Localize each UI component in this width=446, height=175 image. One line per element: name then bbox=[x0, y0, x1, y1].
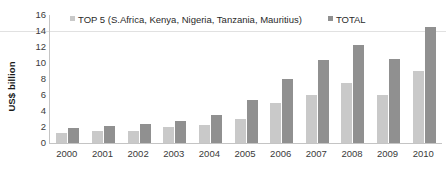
bar-top5 bbox=[163, 127, 174, 143]
bar-group bbox=[299, 15, 335, 143]
legend-item: TOP 5 (S.Africa, Kenya, Nigeria, Tanzani… bbox=[70, 14, 302, 25]
bar-total bbox=[389, 59, 400, 143]
y-axis-tick-labels: 1614121086420 bbox=[24, 9, 46, 149]
bar-total bbox=[211, 115, 222, 143]
bar-group bbox=[86, 15, 122, 143]
x-axis-tick-label: 2003 bbox=[156, 148, 192, 159]
bar-group bbox=[193, 15, 229, 143]
legend-swatch-icon bbox=[328, 16, 333, 21]
bar-group bbox=[157, 15, 193, 143]
x-axis-tick-label: 2006 bbox=[263, 148, 299, 159]
y-axis-tick-label: 16 bbox=[24, 10, 46, 20]
x-axis-tick-label: 2001 bbox=[85, 148, 121, 159]
bar-group bbox=[264, 15, 300, 143]
bar-top5 bbox=[235, 119, 246, 143]
x-axis-tick-label: 2002 bbox=[120, 148, 156, 159]
bar-top5 bbox=[306, 95, 317, 143]
y-axis-tick-label: 12 bbox=[24, 42, 46, 52]
bar-top5 bbox=[341, 83, 352, 143]
bar-total bbox=[140, 124, 151, 143]
bar-total bbox=[318, 60, 329, 143]
bar-total bbox=[353, 45, 364, 143]
bar-total bbox=[247, 100, 258, 143]
legend-swatch-icon bbox=[70, 16, 75, 21]
legend-label: TOP 5 (S.Africa, Kenya, Nigeria, Tanzani… bbox=[78, 14, 302, 25]
bar-total bbox=[68, 128, 79, 143]
x-axis-tick-label: 2010 bbox=[405, 148, 441, 159]
x-axis-tick-label: 2000 bbox=[49, 148, 85, 159]
bar-top5 bbox=[377, 95, 388, 143]
x-axis-tick-label: 2004 bbox=[192, 148, 228, 159]
y-axis-title-text: US$ billion bbox=[6, 61, 17, 111]
bar-total bbox=[104, 126, 115, 143]
bar-chart: US$ billion 1614121086420 20002001200220… bbox=[0, 0, 446, 175]
bar-top5 bbox=[270, 103, 281, 143]
y-axis-title: US$ billion bbox=[4, 38, 18, 134]
chart-legend: TOP 5 (S.Africa, Kenya, Nigeria, Tanzani… bbox=[70, 14, 366, 25]
bar-top5 bbox=[56, 133, 67, 143]
y-axis-tick-label: 8 bbox=[24, 74, 46, 84]
bar-group bbox=[406, 15, 442, 143]
bar-top5 bbox=[413, 71, 424, 143]
bar-total bbox=[425, 27, 436, 143]
bar-top5 bbox=[128, 131, 139, 143]
legend-label: TOTAL bbox=[336, 14, 366, 25]
bar-top5 bbox=[92, 131, 103, 143]
x-axis-tick-labels: 2000200120022003200420052006200720082009… bbox=[49, 148, 441, 159]
x-axis-tick-label: 2005 bbox=[227, 148, 263, 159]
y-axis-tick-label: 14 bbox=[24, 26, 46, 36]
bar-top5 bbox=[199, 125, 210, 143]
x-axis-tick-label: 2009 bbox=[370, 148, 406, 159]
y-axis-tick-label: 2 bbox=[24, 122, 46, 132]
y-axis-tick-label: 0 bbox=[24, 138, 46, 148]
legend-item: TOTAL bbox=[328, 14, 366, 25]
bar-group bbox=[335, 15, 371, 143]
bar-group bbox=[121, 15, 157, 143]
y-axis-tick-label: 6 bbox=[24, 90, 46, 100]
y-axis-tick-label: 10 bbox=[24, 58, 46, 68]
x-axis-tick-label: 2008 bbox=[334, 148, 370, 159]
bar-total bbox=[175, 121, 186, 143]
x-axis-tick-label: 2007 bbox=[298, 148, 334, 159]
bar-group bbox=[50, 15, 86, 143]
bar-groups bbox=[50, 15, 442, 143]
plot-area bbox=[49, 15, 442, 144]
bar-total bbox=[282, 79, 293, 143]
bar-group bbox=[228, 15, 264, 143]
bar-group bbox=[371, 15, 407, 143]
y-axis-tick-label: 4 bbox=[24, 106, 46, 116]
